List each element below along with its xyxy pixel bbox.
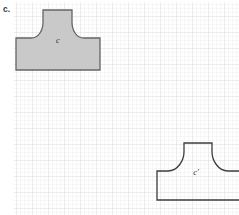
part-label: c. — [3, 4, 10, 14]
shape-label-original: c — [56, 35, 60, 45]
figure-canvas: c. c c' — [0, 0, 239, 215]
geometry-figure: c. c c' — [0, 0, 239, 215]
shape-label-image: c' — [193, 167, 199, 177]
